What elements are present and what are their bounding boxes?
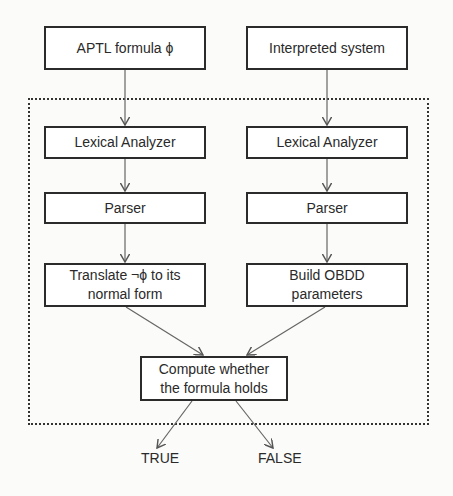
interpreted-system-box: Interpreted system <box>246 26 408 70</box>
compute-box: Compute whether the formula holds <box>140 356 288 401</box>
false-output-label: FALSE <box>258 450 302 466</box>
build-obdd-box: Build OBDD parameters <box>246 263 408 307</box>
translate-normal-form-box: Translate ¬ϕ to its normal form <box>44 263 206 307</box>
connector-arrows <box>0 0 453 496</box>
right-lexical-analyzer-label: Lexical Analyzer <box>276 133 377 152</box>
left-lexical-analyzer-box: Lexical Analyzer <box>44 126 206 159</box>
right-parser-label: Parser <box>306 199 347 218</box>
translate-normal-form-label: Translate ¬ϕ to its normal form <box>60 266 190 304</box>
right-lexical-analyzer-box: Lexical Analyzer <box>246 126 408 159</box>
left-lexical-analyzer-label: Lexical Analyzer <box>74 133 175 152</box>
build-obdd-label: Build OBDD parameters <box>282 266 372 304</box>
aptl-formula-label: APTL formula ϕ <box>77 39 174 58</box>
aptl-formula-box: APTL formula ϕ <box>44 26 206 70</box>
right-parser-box: Parser <box>246 192 408 224</box>
left-parser-box: Parser <box>44 192 206 224</box>
interpreted-system-label: Interpreted system <box>269 39 385 58</box>
left-parser-label: Parser <box>104 199 145 218</box>
compute-label: Compute whether the formula holds <box>154 360 274 398</box>
true-output-label: TRUE <box>141 450 179 466</box>
